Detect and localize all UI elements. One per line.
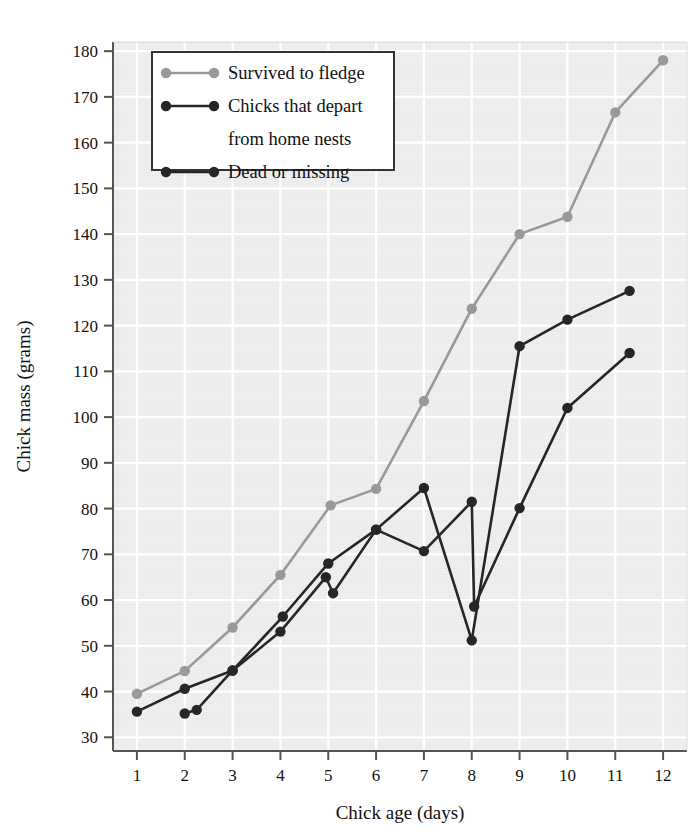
data-point (562, 212, 572, 222)
data-point (321, 572, 331, 582)
data-point (180, 666, 190, 676)
data-point (227, 622, 237, 632)
data-point (562, 314, 572, 324)
svg-text:5: 5 (324, 766, 333, 785)
svg-text:110: 110 (73, 362, 98, 381)
data-point (371, 484, 381, 494)
data-point (419, 483, 429, 493)
data-point (469, 601, 479, 611)
legend-marker (209, 167, 219, 177)
legend-label: Chicks that depart (228, 96, 363, 116)
data-point (278, 611, 288, 621)
data-point (658, 55, 668, 65)
data-point (371, 524, 381, 534)
data-point (624, 348, 634, 358)
y-axis-title: Chick mass (grams) (13, 321, 35, 473)
data-point (514, 229, 524, 239)
svg-text:120: 120 (73, 317, 99, 336)
svg-text:150: 150 (73, 179, 99, 198)
data-point (562, 403, 572, 413)
data-point (275, 570, 285, 580)
svg-text:2: 2 (181, 766, 190, 785)
data-point (467, 497, 477, 507)
svg-text:50: 50 (81, 637, 98, 656)
svg-text:12: 12 (655, 766, 672, 785)
svg-text:8: 8 (468, 766, 477, 785)
svg-text:170: 170 (73, 88, 99, 107)
data-point (514, 503, 524, 513)
legend-marker (209, 101, 219, 111)
x-axis-title: Chick age (days) (336, 802, 465, 824)
data-point (514, 341, 524, 351)
svg-text:6: 6 (372, 766, 381, 785)
svg-text:130: 130 (73, 271, 99, 290)
svg-text:30: 30 (81, 728, 98, 747)
data-point (227, 665, 237, 675)
data-point (323, 558, 333, 568)
data-point (624, 286, 634, 296)
legend-marker (161, 101, 171, 111)
data-point (419, 396, 429, 406)
svg-text:80: 80 (81, 500, 98, 519)
svg-text:9: 9 (515, 766, 524, 785)
data-point (180, 684, 190, 694)
svg-text:160: 160 (73, 134, 99, 153)
legend-marker (209, 68, 219, 78)
data-point (467, 635, 477, 645)
data-point (419, 546, 429, 556)
svg-text:10: 10 (559, 766, 576, 785)
legend-marker (161, 167, 171, 177)
svg-text:100: 100 (73, 408, 99, 427)
chart-figure: 3040506070809010011012013014015016017018… (0, 0, 700, 838)
data-point (610, 107, 620, 117)
chart-legend: Survived to fledgeChicks that departfrom… (152, 52, 394, 182)
svg-text:180: 180 (73, 42, 99, 61)
legend-label: Dead or missing (228, 162, 349, 182)
data-point (275, 626, 285, 636)
legend-marker (161, 68, 171, 78)
data-point (192, 705, 202, 715)
svg-text:11: 11 (607, 766, 623, 785)
data-point (328, 588, 338, 598)
legend-label: Survived to fledge (228, 63, 365, 83)
svg-text:4: 4 (276, 766, 285, 785)
svg-text:1: 1 (133, 766, 142, 785)
svg-text:140: 140 (73, 225, 99, 244)
data-point (325, 500, 335, 510)
chick-mass-line-chart: 3040506070809010011012013014015016017018… (0, 0, 700, 838)
data-point (180, 708, 190, 718)
data-point (132, 689, 142, 699)
data-point (132, 706, 142, 716)
data-point (467, 303, 477, 313)
legend-label: from home nests (228, 129, 351, 149)
svg-text:70: 70 (81, 545, 98, 564)
svg-text:7: 7 (420, 766, 429, 785)
svg-text:3: 3 (228, 766, 237, 785)
svg-text:60: 60 (81, 591, 98, 610)
svg-text:90: 90 (81, 454, 98, 473)
svg-text:40: 40 (81, 683, 98, 702)
